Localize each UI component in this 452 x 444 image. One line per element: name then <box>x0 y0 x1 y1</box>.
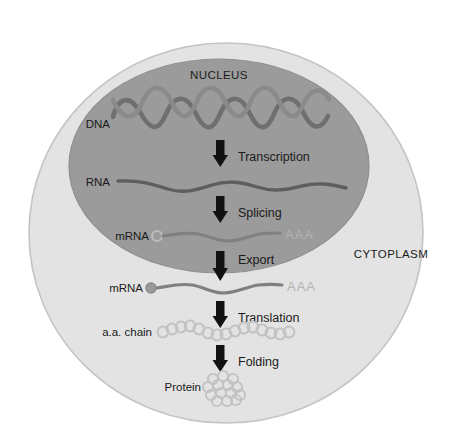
folding-label: Folding <box>238 355 279 369</box>
mrna-cytoplasmic-label: mRNA <box>109 282 143 294</box>
transcription-label: Transcription <box>238 150 310 164</box>
rna-label: RNA <box>86 176 111 188</box>
aa-chain-label: a.a. chain <box>102 326 152 338</box>
mrna-cap-filled-circle <box>146 283 156 293</box>
splicing-label: Splicing <box>238 206 282 220</box>
poly-a-tail-cytoplasmic-label: AAA <box>287 279 316 294</box>
diagram-canvas: NUCLEUS CYTOPLASM DNA Transcription RNA … <box>0 0 452 444</box>
mrna-nuclear-label: mRNA <box>115 230 149 242</box>
nucleus-label: NUCLEUS <box>190 69 248 81</box>
protein-label: Protein <box>165 381 201 393</box>
cytoplasm-label: CYTOPLASM <box>354 248 428 260</box>
export-label: Export <box>238 253 275 267</box>
poly-a-tail-nuclear-label: AAA <box>285 227 314 242</box>
central-dogma-diagram: NUCLEUS CYTOPLASM DNA Transcription RNA … <box>0 0 452 444</box>
dna-label: DNA <box>86 118 111 130</box>
